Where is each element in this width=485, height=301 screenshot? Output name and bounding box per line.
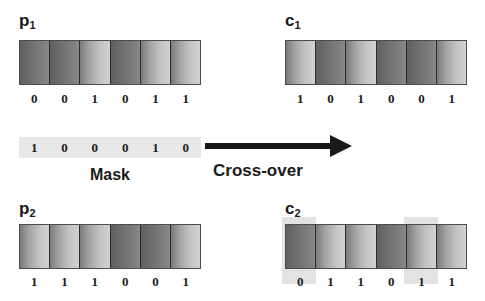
crossover-operation-label: Cross-over [213,162,303,179]
gene-cell [437,225,466,268]
chromosome-label-p2-letter: p [19,199,29,218]
chromosome-bar-p1 [19,40,201,85]
bit-label: 0 [49,92,79,105]
mask-group: 1 0 0 0 1 0 Mask [0,130,230,195]
gene-cell [407,41,437,84]
bit-label: 0 [19,92,49,105]
gene-cell [171,41,200,84]
gene-cell [20,41,50,84]
gene-cell [286,41,316,84]
gene-cell [346,41,376,84]
chromosome-label-p2: p2 [19,200,36,217]
chromosome-label-c1-subscript: 1 [294,19,300,31]
bit-label-row-p1: 0 0 1 0 1 1 [19,92,201,105]
gene-cell [141,41,171,84]
gene-cell [171,225,200,268]
bit-label: 1 [171,92,201,105]
arrow-head-icon [330,135,352,157]
mask-bit-label: 0 [49,141,79,154]
bit-label: 0 [140,275,170,288]
chromosome-bar-c2 [285,224,467,269]
bit-label-row-c2: 0 1 1 0 1 1 [285,275,467,288]
chromosome-bar-p2 [19,224,201,269]
chromosome-group-p1: p1 0 0 1 0 1 1 [0,0,230,110]
chromosome-label-c1: c1 [285,12,301,29]
gene-cell [20,225,50,268]
bit-label: 0 [285,275,315,288]
gene-cell [316,41,346,84]
chromosome-label-p1: p1 [19,12,36,29]
chromosome-label-p1-subscript: 1 [29,19,35,31]
mask-band: 1 0 0 0 1 0 [19,137,201,158]
gene-cell [50,41,80,84]
bit-label: 0 [110,92,140,105]
gene-cell [111,41,141,84]
bit-label: 0 [315,92,345,105]
bit-label: 1 [437,275,467,288]
mask-bit-label: 1 [140,141,170,154]
bit-label: 0 [110,275,140,288]
gene-cell [80,41,110,84]
mask-bit-label: 0 [80,141,110,154]
arrow-shaft-icon [205,143,333,149]
gene-cell [80,225,110,268]
bit-label: 1 [406,275,436,288]
chromosome-group-p2: p2 1 1 1 0 0 1 [0,195,230,301]
bit-label: 1 [315,275,345,288]
bit-label: 1 [19,275,49,288]
bit-label: 1 [80,275,110,288]
mask-bit-label: 1 [19,141,49,154]
gene-cell [346,225,376,268]
mask-caption: Mask [19,167,201,183]
bit-label: 1 [140,92,170,105]
chromosome-bar-c1 [285,40,467,85]
bit-label: 1 [437,92,467,105]
gene-cell [286,225,316,268]
chromosome-label-p2-subscript: 2 [29,207,35,219]
chromosome-group-c2: c2 0 1 1 0 1 1 [265,195,485,301]
bit-label: 1 [49,275,79,288]
bit-label: 1 [346,275,376,288]
bit-label: 1 [80,92,110,105]
bit-label: 1 [346,92,376,105]
gene-cell [316,225,346,268]
gene-cell [437,41,466,84]
gene-cell [111,225,141,268]
gene-cell [141,225,171,268]
gene-cell [377,225,407,268]
chromosome-group-c1: c1 1 0 1 0 0 1 [265,0,485,110]
bit-label: 0 [406,92,436,105]
gene-cell [407,225,437,268]
bit-label: 1 [285,92,315,105]
bit-label: 0 [376,275,406,288]
bit-label-row-p2: 1 1 1 0 0 1 [19,275,201,288]
chromosome-label-c2: c2 [285,200,301,217]
mask-bit-label: 0 [171,141,201,154]
bit-label: 1 [171,275,201,288]
gene-cell [50,225,80,268]
crossover-diagram: p1 0 0 1 0 1 1 c1 1 [0,0,485,301]
mask-bit-label: 0 [110,141,140,154]
bit-label-row-c1: 1 0 1 0 0 1 [285,92,467,105]
crossover-arrow-group: Cross-over [200,130,380,195]
bit-label: 0 [376,92,406,105]
chromosome-label-p1-letter: p [19,11,29,30]
gene-cell [377,41,407,84]
